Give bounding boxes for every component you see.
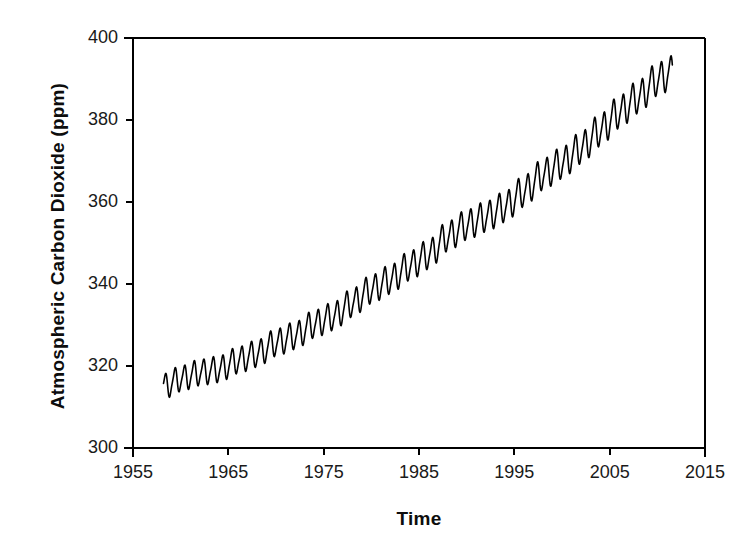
x-tick-label: 2005: [580, 462, 640, 483]
axes: [133, 38, 705, 448]
x-tick-label: 1975: [294, 462, 354, 483]
y-tick-label: 320: [72, 355, 118, 376]
y-tick-label: 380: [72, 109, 118, 130]
y-tick-label: 400: [72, 27, 118, 48]
y-tick-label: 360: [72, 191, 118, 212]
x-tick-label: 1995: [484, 462, 544, 483]
x-tick-label: 1985: [389, 462, 449, 483]
x-tick-label: 1965: [198, 462, 258, 483]
co2-keeling-curve-line: [164, 56, 673, 397]
y-tick-label: 340: [72, 273, 118, 294]
tick-marks: [124, 38, 705, 457]
y-tick-label: 300: [72, 437, 118, 458]
x-tick-label: 1955: [103, 462, 163, 483]
x-tick-label: 2015: [675, 462, 735, 483]
chart-figure: Atmospheric Carbon Dioxide (ppm) Time 30…: [0, 0, 753, 554]
